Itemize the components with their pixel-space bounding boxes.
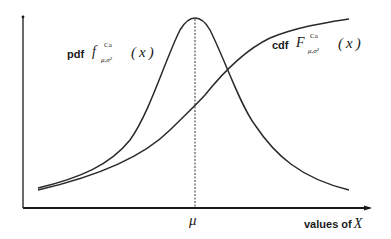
x-axis-arrow-icon: [364, 206, 372, 211]
pdf-superscript: Ca: [104, 41, 112, 49]
x-axis-label-prefix: values of: [304, 218, 352, 230]
x-axis-label-var: X: [354, 216, 363, 231]
cdf-arg: (x): [338, 35, 364, 52]
pdf-arg: (x): [131, 44, 157, 61]
x-axis-label: values of X: [304, 214, 362, 232]
pdf-prefix: pdf: [67, 48, 84, 60]
cdf-func: F: [296, 35, 305, 51]
pdf-subscript: μ,σ²: [101, 56, 112, 64]
mu-label: μ: [189, 212, 197, 229]
cdf-prefix: cdf: [272, 39, 289, 51]
pdf-label: pdf f Ca μ,σ² (x): [67, 43, 167, 63]
cdf-subscript: μ,σ²: [308, 47, 319, 55]
cdf-label: cdf F Ca μ,σ² (x): [272, 34, 382, 54]
y-axis-tip: [22, 16, 25, 19]
pdf-func: f: [92, 44, 96, 60]
cdf-superscript: Ca: [310, 32, 318, 40]
